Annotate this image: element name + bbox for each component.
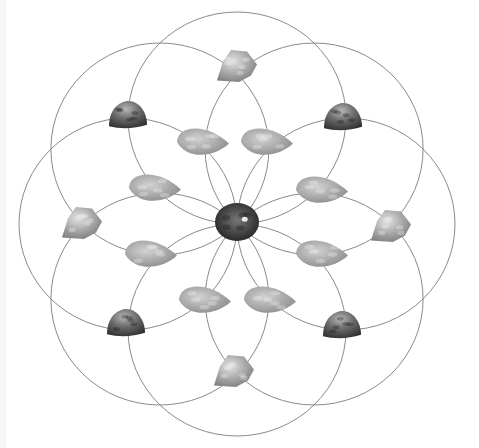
stone-bottom-right-icon <box>323 311 361 338</box>
grid-stones <box>62 50 411 387</box>
inner-stone-7-icon <box>179 286 231 312</box>
inner-stone-3-icon <box>129 174 181 200</box>
inner-stone-8-icon <box>244 286 296 312</box>
inner-stone-5-icon <box>125 240 177 266</box>
stone-bottom-left-icon <box>107 309 145 336</box>
stone-top-icon <box>217 50 257 82</box>
inner-stone-2-icon <box>241 128 293 154</box>
stone-right-icon <box>371 210 411 242</box>
center-stone-icon <box>215 203 259 241</box>
stone-bottom-icon <box>214 355 254 387</box>
inner-stone-1-icon <box>177 128 229 154</box>
stone-top-left-icon <box>109 101 147 128</box>
inner-stone-6-icon <box>296 240 348 266</box>
stone-left-icon <box>62 207 102 239</box>
inner-stone-4-icon <box>296 176 348 202</box>
crystal-grid-figure <box>0 0 479 448</box>
stone-top-right-icon <box>324 103 362 130</box>
